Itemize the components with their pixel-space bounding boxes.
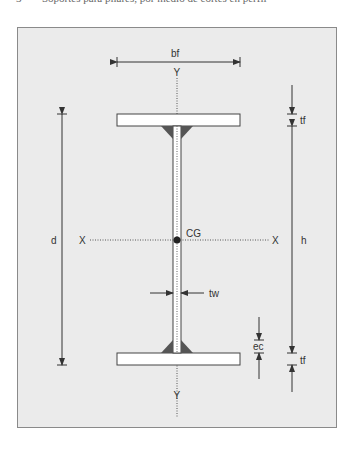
weld-bottom-right	[181, 340, 193, 353]
weld-top-right	[181, 126, 193, 139]
flange-width-label: bf	[171, 48, 180, 59]
y-axis-label-bottom: Y	[174, 390, 181, 401]
total-depth-label: d	[51, 235, 57, 246]
flange-thickness-top-label: tf	[300, 115, 306, 126]
top-flange	[117, 114, 240, 126]
weld-top-left	[161, 126, 173, 139]
x-axis-label-right: X	[272, 235, 279, 246]
i-beam-diagram: Y Y bf X X CG d tf h tf tw ec	[0, 0, 356, 449]
y-axis-label-top: Y	[174, 67, 181, 78]
centroid-label: CG	[186, 228, 201, 239]
weld-size-label: ec	[253, 341, 264, 352]
x-axis-label-left: X	[79, 235, 86, 246]
web-thickness-label: tw	[209, 288, 220, 299]
web-height-label: h	[301, 235, 307, 246]
flange-thickness-bottom-label: tf	[300, 355, 306, 366]
weld-bottom-left	[161, 340, 173, 353]
centroid-dot	[174, 237, 181, 244]
bottom-flange	[117, 353, 240, 365]
